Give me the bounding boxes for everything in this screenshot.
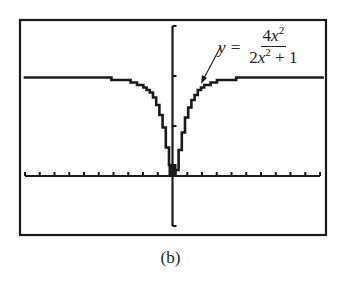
figure-caption: (b) — [0, 248, 341, 268]
function-equation-label: y = 4x2 2x2 + 1 — [218, 27, 297, 68]
equation-denominator: 2x2 + 1 — [249, 47, 297, 68]
equation-fraction: 4x2 2x2 + 1 — [249, 27, 297, 68]
equation-numerator: 4x2 — [261, 27, 287, 47]
equation-lhs: y = — [218, 38, 241, 58]
